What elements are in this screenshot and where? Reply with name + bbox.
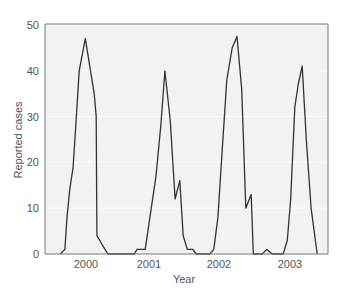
plot-area — [45, 24, 328, 254]
x-tick-label: 2001 — [137, 258, 161, 270]
y-tick-label: 30 — [27, 111, 39, 123]
x-tick-label: 2002 — [207, 258, 231, 270]
y-tick-label: 10 — [27, 202, 39, 214]
y-tick-label: 0 — [33, 248, 39, 260]
y-tick-label: 50 — [27, 19, 39, 31]
y-axis-title: Reported cases — [12, 101, 24, 179]
x-tick-label: 2000 — [74, 258, 98, 270]
y-tick-label: 40 — [27, 65, 39, 77]
y-tick-label: 20 — [27, 156, 39, 168]
x-axis-title: Year — [173, 273, 196, 285]
y-axis-ticks: 01020304050 — [27, 19, 39, 260]
x-axis-ticks: 2000200120022003 — [74, 258, 302, 270]
chart: 01020304050 2000200120022003 Year Report… — [0, 0, 343, 296]
x-tick-label: 2003 — [278, 258, 302, 270]
